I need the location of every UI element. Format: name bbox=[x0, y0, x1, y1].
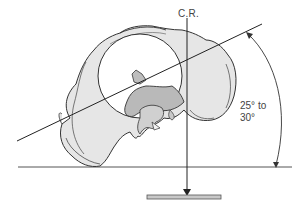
image-receptor bbox=[147, 195, 221, 199]
bone-left-bump bbox=[59, 113, 62, 124]
coccyx-region bbox=[138, 105, 164, 134]
central-ray-label: C.R. bbox=[178, 8, 199, 20]
angle-label-line2: 30° bbox=[240, 112, 280, 124]
bone-illustration bbox=[59, 26, 236, 167]
angle-label: 25° to 30° bbox=[240, 100, 280, 124]
angle-label-line1: 25° to bbox=[240, 100, 280, 112]
radiographic-positioning-diagram: C.R. 25° to 30° bbox=[0, 0, 306, 211]
